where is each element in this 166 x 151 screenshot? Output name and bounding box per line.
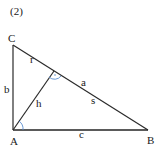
- vertex-label-C: C: [8, 32, 15, 44]
- segment-label-c: c: [79, 128, 84, 140]
- segment-label-s: s: [91, 94, 95, 106]
- segment-label-h: h: [36, 97, 42, 109]
- segment-label-a: a: [81, 76, 86, 88]
- segment-label-b: b: [4, 83, 10, 95]
- angle-dot-foot: [54, 74, 56, 76]
- vertex-label-B: B: [147, 134, 154, 146]
- vertex-label-A: A: [10, 135, 18, 147]
- segment-label-r: r: [30, 53, 34, 65]
- right-triangle-diagram: (2) C A B b h r a s c: [0, 0, 166, 151]
- figure-tag: (2): [10, 5, 23, 18]
- angle-arc-A: [19, 121, 23, 130]
